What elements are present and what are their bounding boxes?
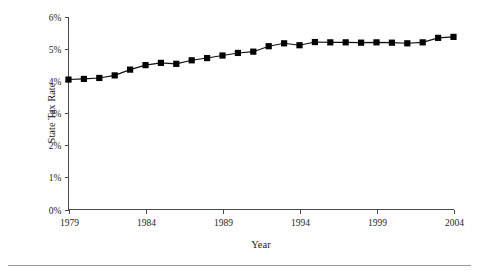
data-point-2003 [435,35,441,41]
x-tick-label-1994: 1994 [291,218,310,228]
data-point-1986 [173,61,179,67]
data-point-1991 [250,49,256,55]
data-point-1981 [96,75,102,81]
data-point-1993 [281,40,287,46]
x-tick-label-1979: 1979 [60,218,79,228]
data-point-1984 [142,62,148,68]
x-tick-label-1999: 1999 [368,218,387,228]
x-tick-label-2004: 2004 [445,218,464,228]
data-point-1998 [358,40,364,46]
y-axis-ticks [65,18,69,211]
data-point-1987 [189,57,195,63]
data-point-1994 [296,42,302,48]
y-tick-label-5%: 5% [49,45,62,55]
data-series-state-tax-rate [65,34,456,83]
y-tick-label-0%: 0% [49,206,62,216]
y-tick-label-6%: 6% [49,13,62,23]
data-point-2001 [404,40,410,46]
data-point-1989 [219,52,225,58]
y-axis-title: State Tax Rate [46,82,57,143]
data-point-1997 [343,39,349,45]
data-point-1980 [81,76,87,82]
x-axis-title: Year [251,239,271,250]
x-axis: 197919841989199419992004 [60,210,464,228]
y-tick-label-1%: 1% [49,173,62,183]
data-point-1988 [204,55,210,61]
data-point-1985 [158,60,164,66]
data-point-1999 [373,39,379,45]
data-point-1982 [112,72,118,78]
data-point-1979 [65,76,71,82]
series-line-state-tax-rate [69,37,454,80]
data-point-2000 [389,40,395,46]
data-point-1983 [127,67,133,73]
x-axis-tick-labels: 197919841989199419992004 [60,218,464,228]
chart-figure: 0%1%2%3%4%5%6% 197919841989199419992004 … [0,0,479,276]
x-axis-ticks [70,210,455,214]
data-point-1992 [266,43,272,49]
state-tax-rate-line-chart: 0%1%2%3%4%5%6% 197919841989199419992004 … [0,0,479,276]
data-point-1996 [327,39,333,45]
data-point-2004 [450,34,456,40]
x-tick-label-1984: 1984 [137,218,156,228]
data-point-1990 [235,50,241,56]
series-markers [65,34,456,83]
data-point-1995 [312,39,318,45]
x-tick-label-1989: 1989 [214,218,233,228]
data-point-2002 [420,39,426,45]
